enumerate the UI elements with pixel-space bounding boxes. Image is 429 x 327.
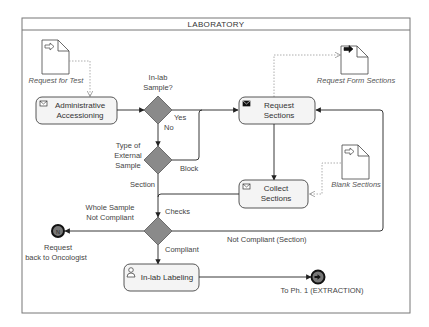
gateway-label: External	[114, 151, 142, 160]
envelope-icon	[243, 184, 250, 189]
task-request-sections[interactable]: Request Sections	[239, 97, 315, 124]
flow-label-yes: Yes	[174, 113, 186, 122]
task-label: In-lab Labeling	[141, 273, 193, 282]
gateway-label: Sample	[115, 161, 140, 170]
task-in-lab-labeling[interactable]: In-lab Labeling	[124, 264, 199, 291]
gateway-label: Checks	[165, 207, 190, 216]
data-object-label: Request Form Sections	[317, 76, 396, 85]
pool-title: LABORATORY	[188, 20, 245, 29]
task-label: Request	[264, 101, 295, 110]
end-event-glyph: N	[56, 229, 60, 235]
flow-label-no: No	[164, 123, 174, 132]
end-event-label: To Ph. 1 (EXTRACTION)	[281, 286, 364, 295]
gateway-label: Sample?	[143, 83, 173, 92]
filled-envelope-icon	[243, 101, 250, 106]
flow-label-section: Section	[130, 180, 155, 189]
flow-label-whole-sample: Whole Sample	[86, 203, 135, 212]
task-administrative-accessioning[interactable]: Administrative Accessioning	[36, 97, 117, 124]
task-label: Sections	[261, 194, 292, 203]
bpmn-diagram: LABORATORY Request for Test Administrati…	[0, 0, 429, 327]
task-collect-sections[interactable]: Collect Sections	[239, 180, 308, 208]
end-event-label: Request	[44, 243, 73, 252]
flow-label-block: Block	[180, 164, 199, 173]
envelope-icon	[40, 101, 47, 106]
task-label: Accessioning	[56, 111, 103, 120]
task-label: Sections	[264, 111, 295, 120]
gateway-label: In-lab	[149, 73, 168, 82]
task-label: Collect	[264, 184, 289, 193]
flow-label-not-compliant: Not Compliant	[86, 213, 134, 222]
data-object-label: Request for Test	[29, 76, 85, 85]
flow-label-compliant: Compliant	[165, 245, 200, 254]
flow-label-not-compliant-section: Not Compliant (Section)	[227, 235, 307, 244]
end-event-label: back to Oncologist	[25, 253, 88, 262]
task-label: Administrative	[55, 101, 106, 110]
gateway-label: Type of	[116, 141, 142, 150]
data-object-label: Blank Sections	[331, 180, 381, 189]
